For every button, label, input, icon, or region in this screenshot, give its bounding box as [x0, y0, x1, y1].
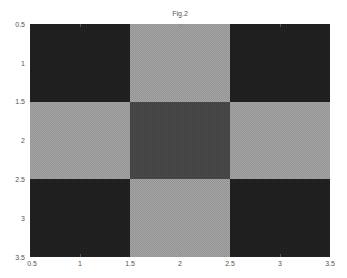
- x-tick-label: 1.5: [125, 260, 135, 267]
- heatmap-cell-r2-c3: [230, 102, 330, 180]
- x-tick-mark: [280, 24, 281, 27]
- x-tick-label: 0.5: [27, 260, 37, 267]
- heatmap-cell-r1-c2: [130, 24, 230, 102]
- heatmap-cell-r2-c2: [130, 102, 230, 180]
- y-tick-label: 1: [21, 60, 25, 67]
- x-tick-mark: [80, 254, 81, 257]
- heatmap-cell-r2-c1: [30, 102, 130, 180]
- x-tick-label: 2: [178, 260, 182, 267]
- y-tick-label: 0.5: [15, 21, 25, 28]
- heatmap-cell-r1-c1: [30, 24, 130, 102]
- chart-title: Fig.2: [0, 10, 347, 17]
- heatmap-plot-area: [30, 24, 330, 257]
- y-tick-label: 2.5: [15, 176, 25, 183]
- heatmap-cell-r1-c3: [230, 24, 330, 102]
- y-tick-label: 3.5: [15, 254, 25, 261]
- heatmap-cell-r3-c1: [30, 179, 130, 257]
- x-tick-label: 1: [78, 260, 82, 267]
- heatmap-cell-r3-c3: [230, 179, 330, 257]
- x-tick-mark: [180, 24, 181, 27]
- x-tick-mark: [180, 254, 181, 257]
- x-tick-label: 3: [278, 260, 282, 267]
- x-tick-label: 3.5: [325, 260, 335, 267]
- y-tick-label: 1.5: [15, 98, 25, 105]
- x-tick-mark: [80, 24, 81, 27]
- heatmap-cell-r3-c2: [130, 179, 230, 257]
- x-tick-mark: [280, 254, 281, 257]
- y-tick-label: 3: [21, 215, 25, 222]
- y-tick-label: 2: [21, 137, 25, 144]
- x-tick-label: 2.5: [225, 260, 235, 267]
